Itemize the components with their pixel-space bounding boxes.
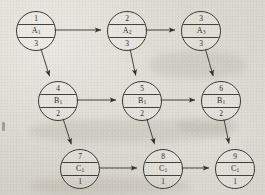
network-node-7[interactable]: 7C11 <box>60 149 100 189</box>
node-task-label: B1 <box>39 94 77 107</box>
node-task-label: A2 <box>108 24 146 37</box>
node-task-letter: C <box>159 165 164 173</box>
edge-n6-to-n9 <box>224 119 229 143</box>
edge-n4-to-n7 <box>63 119 71 145</box>
node-task-subscript: 3 <box>203 30 206 36</box>
edge-n1-to-n4 <box>41 49 50 77</box>
edge-n3-to-n6 <box>205 49 213 76</box>
node-task-subscript: 1 <box>223 100 226 106</box>
margin-mark <box>2 122 5 131</box>
node-task-letter: B <box>54 97 59 105</box>
network-node-3[interactable]: 3A33 <box>181 11 221 51</box>
network-node-2[interactable]: 2A23 <box>107 11 147 51</box>
node-task-label: B1 <box>202 94 240 107</box>
node-task-letter: A <box>123 27 129 35</box>
edge-n2-to-n5 <box>130 49 136 75</box>
network-node-9[interactable]: 9C11 <box>215 149 255 189</box>
node-task-subscript: 1 <box>60 100 63 106</box>
node-task-letter: A <box>32 27 38 35</box>
node-task-letter: B <box>217 97 222 105</box>
node-task-letter: A <box>197 27 203 35</box>
network-node-4[interactable]: 4B12 <box>38 81 78 121</box>
network-node-6[interactable]: 6B12 <box>201 81 241 121</box>
network-node-8[interactable]: 8C11 <box>143 149 183 189</box>
node-task-subscript: 1 <box>38 30 41 36</box>
node-task-label: B1 <box>123 94 161 107</box>
figure-canvas: 1A132A233A334B125B126B127C118C119C11 <box>0 0 265 195</box>
node-task-subscript: 1 <box>144 100 147 106</box>
node-task-label: C1 <box>144 162 182 175</box>
node-task-label: A1 <box>17 24 55 37</box>
node-task-letter: C <box>231 165 236 173</box>
network-node-1[interactable]: 1A13 <box>16 11 56 51</box>
node-task-label: C1 <box>216 162 254 175</box>
node-task-label: A3 <box>182 24 220 37</box>
node-task-subscript: 1 <box>165 168 168 174</box>
node-task-subscript: 2 <box>129 30 132 36</box>
network-node-5[interactable]: 5B12 <box>122 81 162 121</box>
node-task-letter: B <box>138 97 143 105</box>
node-task-label: C1 <box>61 162 99 175</box>
node-task-letter: C <box>76 165 81 173</box>
node-task-subscript: 1 <box>82 168 85 174</box>
edge-n5-to-n8 <box>147 119 155 144</box>
node-task-subscript: 1 <box>237 168 240 174</box>
